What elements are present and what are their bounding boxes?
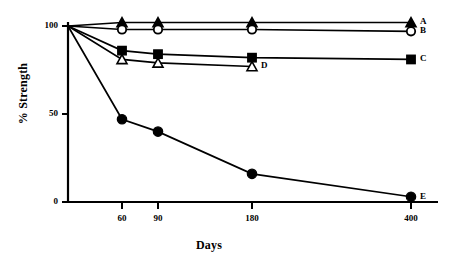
chart-figure: % Strength Days 050100 6090180400 ABCDE [0,0,452,266]
y-tick-label: 50 [32,108,58,118]
x-tick-label: 60 [107,213,137,223]
series-B [68,25,415,35]
x-tick-label: 90 [143,213,173,223]
x-tick-label: 180 [237,213,267,223]
series-D [68,26,257,71]
x-axis-title: Days [196,238,222,253]
series-label-C: C [420,53,427,63]
y-tick-label: 0 [32,196,58,206]
x-tick-label: 400 [396,213,426,223]
series-label-D: D [261,60,268,70]
series-label-E: E [420,191,426,201]
line-chart-canvas [0,0,452,266]
y-tick-label: 100 [32,20,58,30]
series-label-B: B [420,25,426,35]
chart-series-layer [68,18,416,202]
y-axis-title: % Strength [16,49,31,139]
